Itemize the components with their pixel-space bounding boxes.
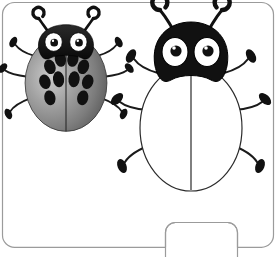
eye-right-pupil [202,45,213,56]
ladybug-head [154,22,228,81]
eye-left-highlight [172,46,176,50]
eye-left-pupil [170,45,181,56]
eye-left-highlight [52,40,54,42]
eye-right-highlight [77,40,79,42]
ladybug-worksheet-illustration [0,0,277,257]
eye-right-highlight [204,46,208,50]
eye-right-pupil [75,39,83,47]
bottom-tab [166,223,238,257]
ladybug-head [38,25,93,59]
worksheet-canvas: Colored ladybug example Blank ladybug to… [0,0,277,257]
eye-left-pupil [50,39,58,47]
